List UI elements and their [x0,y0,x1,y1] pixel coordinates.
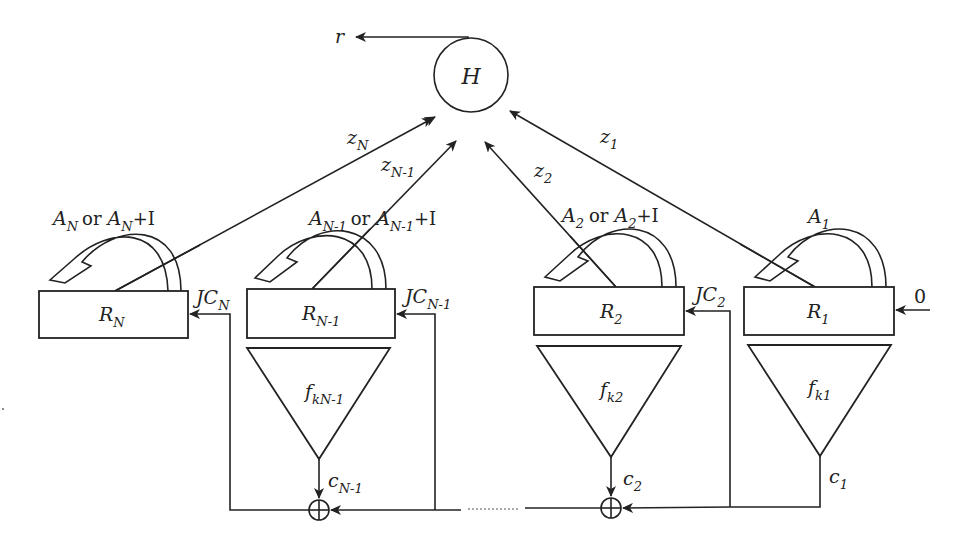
initial-input-arrow: 0 [896,285,930,310]
jc-N-label: JCN [192,286,230,313]
jc-2-label: JC2 [691,283,725,310]
initial-input-label: 0 [914,285,926,307]
feedback-arrow-2: A2orA2+I [545,204,676,287]
output-arrow: r [335,25,468,47]
register-2: R2 [534,287,684,335]
register-1: R1 [744,287,894,335]
jc-arrow-N-1: JCN-1 [397,285,451,510]
c-N-1-label: cN-1 [328,469,363,496]
c-output-N-1: cN-1 [319,459,363,498]
function-1: fk1 [748,345,891,456]
z-N-label: zN [346,126,369,153]
jc-arrow-2: JC2 [686,283,730,507]
z-2-label: z2 [533,159,552,186]
register-network-diagram: H r zN zN-1 z2 z1 ANorAN+I AN-1orAN-1+I … [0,0,970,551]
output-label: r [335,25,346,47]
jc-N-1-label: JCN-1 [401,285,451,312]
register-N: RN [39,291,188,338]
function-N-1: fkN-1 [247,348,390,459]
adder-2 [601,498,621,518]
c-2-label: c2 [623,467,642,494]
z-N-1-label: zN-1 [380,153,415,180]
function-2: fk2 [537,346,681,457]
c-1-label: c1 [829,465,848,492]
feedback-arrow-N-1: AN-1orAN-1+I [255,207,436,289]
feedback-arrow-1: A1 [755,205,886,287]
feedback-arrow-N: ANorAN+I [50,207,181,291]
feedback-label-N-1: AN-1orAN-1+I [307,207,436,234]
feedback-label-2: A2orA2+I [560,204,659,231]
hub-node: H [434,38,508,112]
z-1-label: z1 [599,125,618,152]
stray-dot [2,408,4,410]
feedback-label-N: ANorAN+I [51,207,155,234]
register-N-1: RN-1 [247,289,395,338]
c-output-2: c2 [611,457,642,496]
hub-label: H [460,64,481,89]
feedback-label-1: A1 [806,205,830,232]
c-output-1: c1 [730,456,848,507]
adder-N-1 [309,500,329,520]
